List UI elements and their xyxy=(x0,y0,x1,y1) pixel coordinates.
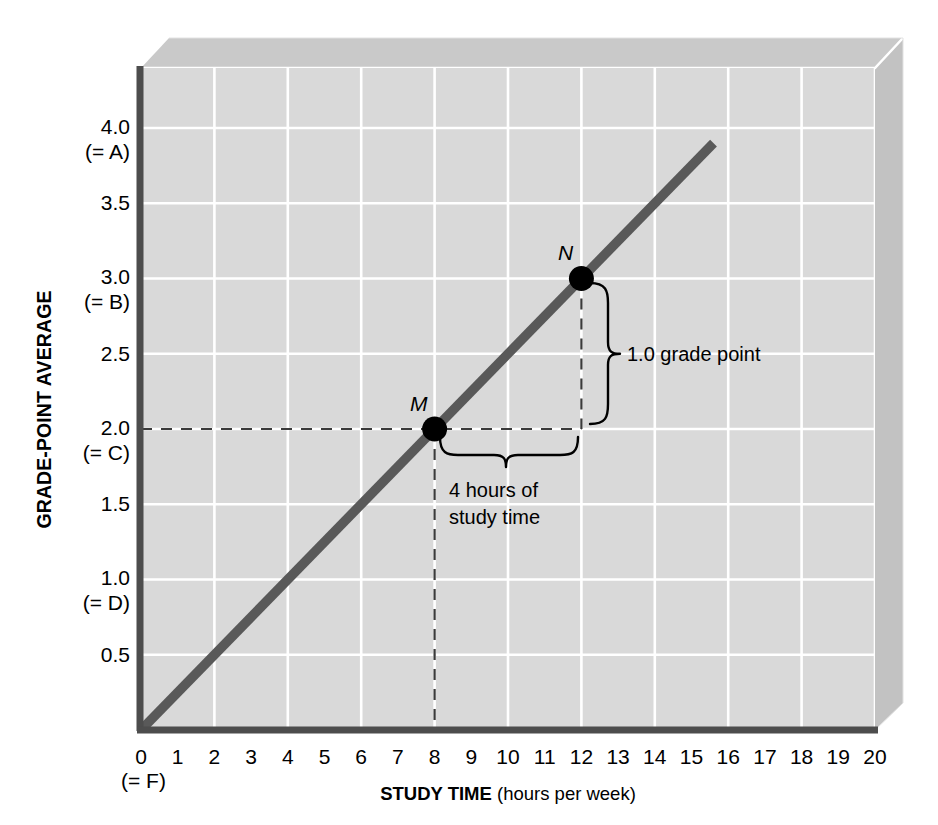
x-tick-1-label: 1 xyxy=(172,745,184,768)
y-tick-3-0: 3.0 (= B) xyxy=(84,264,130,314)
x-tick-20: 20 xyxy=(855,745,895,769)
x-tick-0-sublabel: (= F) xyxy=(121,769,161,793)
x-tick-14-label: 14 xyxy=(643,745,666,768)
x-tick-7: 7 xyxy=(378,745,418,769)
x-tick-4-label: 4 xyxy=(282,745,294,768)
y-tick-2-0: 2.0 (= C) xyxy=(83,415,130,465)
x-axis-title-rest: (hours per week) xyxy=(492,783,636,804)
x-tick-3: 3 xyxy=(231,745,271,769)
x-tick-0: 0 (= F) xyxy=(121,745,161,793)
plot-bevel-right xyxy=(875,38,903,730)
data-point-label-n: N xyxy=(558,241,573,265)
chart-plot-area xyxy=(0,0,938,825)
x-tick-6-label: 6 xyxy=(355,745,367,768)
x-axis-title-strong: STUDY TIME xyxy=(380,783,492,804)
y-tick-2-0-label: 2.0 xyxy=(101,416,130,439)
x-tick-15: 15 xyxy=(672,745,712,769)
y-tick-3-5-label: 3.5 xyxy=(101,191,130,214)
x-tick-1: 1 xyxy=(158,745,198,769)
x-tick-3-label: 3 xyxy=(245,745,257,768)
y-tick-3-0-label: 3.0 xyxy=(101,265,130,288)
x-tick-9-label: 9 xyxy=(465,745,477,768)
x-tick-2-label: 2 xyxy=(209,745,221,768)
y-tick-2-5-label: 2.5 xyxy=(101,342,130,365)
x-tick-12: 12 xyxy=(561,745,601,769)
x-tick-11-label: 11 xyxy=(534,745,556,768)
y-tick-0-5: 0.5 xyxy=(101,642,130,667)
y-tick-4-0: 4.0 (= A) xyxy=(85,114,130,164)
x-tick-15-label: 15 xyxy=(680,745,703,768)
x-tick-5-label: 5 xyxy=(319,745,331,768)
y-tick-4-0-sublabel: (= A) xyxy=(85,139,130,164)
x-axis-title: STUDY TIME (hours per week) xyxy=(140,783,876,805)
x-tick-7-label: 7 xyxy=(392,745,404,768)
y-tick-1-0-label: 1.0 xyxy=(101,566,130,589)
x-tick-9: 9 xyxy=(451,745,491,769)
x-tick-4: 4 xyxy=(268,745,308,769)
data-point-n xyxy=(569,266,594,291)
x-tick-19-label: 19 xyxy=(827,745,850,768)
x-tick-8: 8 xyxy=(415,745,455,769)
y-tick-1-5: 1.5 xyxy=(101,491,130,516)
y-tick-4-0-label: 4.0 xyxy=(101,115,130,138)
x-tick-16: 16 xyxy=(708,745,748,769)
plot-bevel-top xyxy=(141,38,903,68)
rise-annotation-label: 1.0 grade point xyxy=(627,342,760,367)
y-tick-1-5-label: 1.5 xyxy=(101,492,130,515)
y-tick-1-0: 1.0 (= D) xyxy=(83,565,130,615)
x-tick-11: 11 xyxy=(525,745,565,769)
y-tick-2-0-sublabel: (= C) xyxy=(83,440,130,465)
y-axis-title: GRADE-POINT AVERAGE xyxy=(33,200,56,620)
x-tick-8-label: 8 xyxy=(429,745,441,768)
y-tick-3-0-sublabel: (= B) xyxy=(84,289,130,314)
chart-figure: GRADE-POINT AVERAGE STUDY TIME (hours pe… xyxy=(0,0,938,825)
x-tick-16-label: 16 xyxy=(717,745,740,768)
x-tick-12-label: 12 xyxy=(570,745,593,768)
x-tick-19: 19 xyxy=(818,745,858,769)
data-point-m xyxy=(422,417,447,442)
x-tick-18-label: 18 xyxy=(790,745,813,768)
y-tick-0-5-label: 0.5 xyxy=(101,643,130,666)
x-tick-10: 10 xyxy=(488,745,528,769)
x-tick-17: 17 xyxy=(745,745,785,769)
y-tick-2-5: 2.5 xyxy=(101,341,130,366)
x-tick-2: 2 xyxy=(194,745,234,769)
data-point-label-m: M xyxy=(410,392,428,416)
x-tick-6: 6 xyxy=(341,745,381,769)
x-tick-10-label: 10 xyxy=(496,745,519,768)
x-tick-14: 14 xyxy=(635,745,675,769)
x-tick-20-label: 20 xyxy=(863,745,886,768)
y-tick-1-0-sublabel: (= D) xyxy=(83,590,130,615)
x-tick-13: 13 xyxy=(598,745,638,769)
x-tick-18: 18 xyxy=(782,745,822,769)
x-tick-13-label: 13 xyxy=(606,745,629,768)
x-tick-0-label: 0 xyxy=(135,745,147,768)
run-annotation-label-line2: study time xyxy=(449,505,540,530)
x-tick-5: 5 xyxy=(305,745,345,769)
x-tick-17-label: 17 xyxy=(753,745,776,768)
y-tick-3-5: 3.5 xyxy=(101,190,130,215)
run-annotation-label-line1: 4 hours of xyxy=(449,478,538,503)
